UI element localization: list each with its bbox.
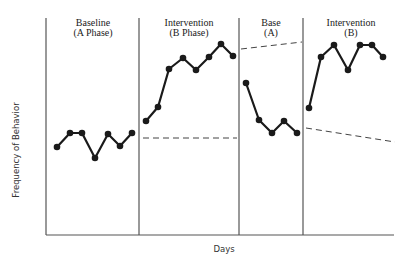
phase-title-1b: (A Phase)	[73, 27, 112, 39]
series-line	[246, 83, 297, 133]
trend-line-a2	[241, 42, 302, 49]
series-3	[243, 80, 301, 137]
data-point	[193, 67, 200, 74]
series-4	[306, 42, 387, 112]
x-axis-label: Days	[213, 244, 235, 254]
data-point	[117, 143, 124, 150]
abab-chart: Baseline (A Phase) Intervention (B Phase…	[0, 0, 408, 264]
phase-title-3b: (A)	[264, 27, 278, 39]
data-point	[230, 53, 237, 60]
data-point	[105, 131, 112, 138]
data-point	[369, 42, 376, 49]
data-point	[380, 54, 387, 61]
data-point	[180, 55, 187, 62]
data-series	[54, 41, 387, 162]
data-point	[129, 130, 136, 137]
data-point	[143, 118, 150, 125]
trend-line-b2	[306, 128, 395, 142]
data-point	[357, 42, 364, 49]
data-point	[79, 130, 86, 137]
y-axis-label: Frequency of Behavior	[11, 102, 21, 198]
phase-title-2b: (B Phase)	[169, 27, 208, 39]
data-point	[54, 144, 61, 151]
data-point	[218, 41, 225, 48]
data-point	[294, 130, 301, 137]
data-point	[206, 54, 213, 61]
data-point	[345, 67, 352, 74]
data-point	[155, 104, 162, 111]
data-point	[92, 155, 99, 162]
data-point	[166, 66, 173, 73]
data-point	[306, 105, 313, 112]
series-2	[143, 41, 237, 125]
phase-title-4b: (B)	[344, 27, 357, 39]
series-1	[54, 130, 136, 162]
data-point	[67, 130, 74, 137]
data-point	[243, 80, 250, 87]
data-point	[269, 130, 276, 137]
data-point	[281, 118, 288, 125]
data-point	[331, 42, 338, 49]
data-point	[256, 117, 263, 124]
data-point	[318, 54, 325, 61]
